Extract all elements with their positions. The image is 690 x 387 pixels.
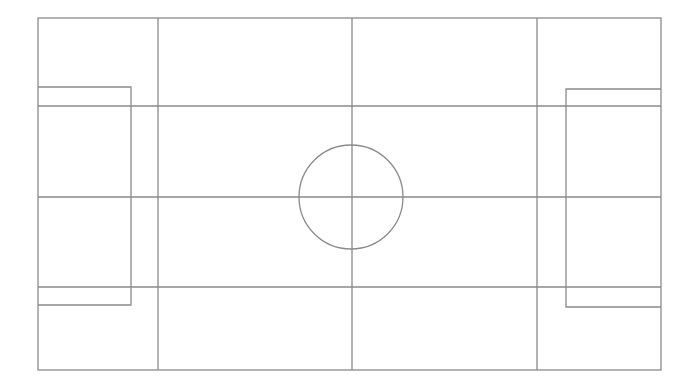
field-lines — [38, 18, 661, 370]
right-penalty-box — [566, 89, 661, 307]
field-diagram — [0, 0, 690, 387]
left-penalty-box — [38, 87, 131, 305]
